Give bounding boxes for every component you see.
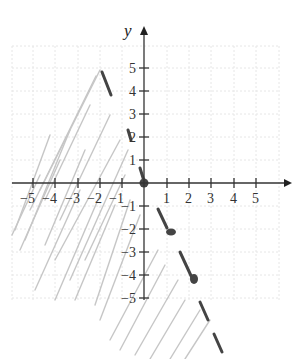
svg-text:−4: −4 (42, 191, 57, 206)
svg-text:5: 5 (129, 61, 136, 76)
svg-text:4: 4 (230, 191, 237, 206)
point-2-neg4 (190, 274, 198, 284)
svg-text:2: 2 (185, 191, 192, 206)
svg-text:1: 1 (129, 153, 136, 168)
svg-text:5: 5 (252, 191, 259, 206)
svg-text:−1: −1 (121, 199, 136, 214)
svg-text:−2: −2 (121, 222, 136, 237)
svg-text:1: 1 (163, 191, 170, 206)
svg-text:−5: −5 (20, 191, 35, 206)
y-axis-label: y (122, 21, 132, 40)
svg-text:−3: −3 (65, 191, 80, 206)
y-axis-arrow-icon (140, 26, 148, 35)
svg-text:4: 4 (129, 84, 136, 99)
x-axis-arrow-icon (284, 179, 292, 187)
x-tick-labels: −5 −4 −3 −2 −1 1 2 3 4 5 (20, 191, 259, 206)
svg-text:2: 2 (129, 130, 136, 145)
svg-text:−2: −2 (87, 191, 102, 206)
svg-text:−3: −3 (121, 245, 136, 260)
svg-text:−5: −5 (121, 291, 136, 306)
shaded-region (12, 70, 210, 359)
x-axis (12, 178, 286, 188)
point-1-neg2 (166, 229, 176, 236)
svg-text:3: 3 (129, 107, 136, 122)
svg-text:−4: −4 (121, 268, 136, 283)
svg-text:3: 3 (207, 191, 214, 206)
coordinate-plane: y −5 −4 −3 −2 −1 1 2 3 4 5 5 4 3 2 1 −1 … (0, 0, 292, 359)
